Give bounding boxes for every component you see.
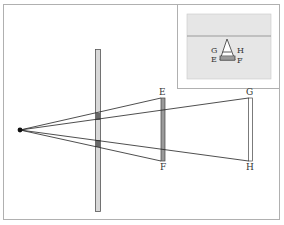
pinhole-diagram: G H E F E F G H bbox=[0, 0, 284, 225]
inset-label-e: E bbox=[211, 55, 217, 64]
screen-gh bbox=[249, 98, 253, 161]
inset-label-g: G bbox=[211, 46, 217, 55]
label-h: H bbox=[246, 162, 254, 172]
barrier bbox=[96, 50, 101, 212]
inset-label-h: H bbox=[237, 46, 244, 55]
label-g: G bbox=[246, 87, 253, 97]
screen-ef bbox=[161, 98, 165, 161]
label-e: E bbox=[159, 87, 166, 97]
point-source bbox=[18, 128, 23, 133]
inset-label-f: F bbox=[237, 56, 243, 65]
label-f: F bbox=[160, 162, 166, 172]
